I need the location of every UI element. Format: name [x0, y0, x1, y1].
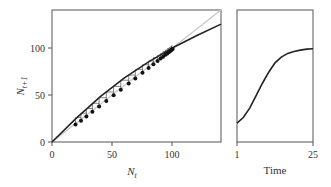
- x-axis-label: Nt: [126, 165, 137, 180]
- y-tick-label: 100: [30, 43, 45, 54]
- figure: 0 50 100 0 50 100 Nt Nt+1 1 25 Time: [0, 0, 331, 187]
- data-point: [79, 119, 83, 123]
- data-point: [151, 62, 155, 66]
- y-tick-label: 50: [35, 90, 45, 101]
- x-tick-label: 100: [165, 149, 180, 160]
- x-tick-label: 0: [50, 149, 55, 160]
- x-tick-label: 25: [308, 149, 318, 160]
- time-series-curve: [237, 49, 313, 123]
- data-point: [84, 115, 88, 119]
- data-point: [74, 123, 78, 127]
- data-points: [74, 47, 175, 127]
- right-plot: 1 25 Time: [235, 10, 319, 176]
- data-point: [119, 88, 123, 92]
- right-plot-frame: [237, 10, 313, 142]
- data-point: [171, 47, 175, 51]
- identity-line: [52, 10, 221, 142]
- data-point: [133, 76, 137, 80]
- x-tick-label: 1: [235, 149, 240, 160]
- data-point: [97, 105, 101, 109]
- data-point: [112, 93, 116, 97]
- x-axis-label: Time: [264, 164, 287, 176]
- data-point: [104, 99, 108, 103]
- x-tick-label: 50: [107, 149, 117, 160]
- y-axis-label: Nt+1: [14, 77, 29, 97]
- left-plot: 0 50 100 0 50 100 Nt Nt+1: [14, 10, 221, 180]
- data-point: [90, 110, 94, 114]
- y-tick-label: 0: [40, 137, 45, 148]
- data-point: [141, 71, 145, 75]
- data-point: [147, 66, 151, 70]
- data-point: [127, 82, 131, 86]
